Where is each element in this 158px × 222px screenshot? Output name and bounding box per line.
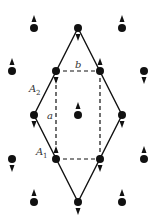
atom-dot-icon [30,198,38,206]
spin-up-arrow-icon [120,15,125,22]
spin-down-arrow-icon [10,165,15,172]
lattice-site [8,155,16,172]
atom-dot-icon [118,111,126,119]
atom-dot-icon [74,198,82,206]
atom-dot-icon [52,67,60,75]
label-A1-main: A [35,146,43,157]
spin-down-arrow-icon [32,121,37,128]
label-A1: A 1 [35,146,47,160]
spin-up-arrow-icon [76,102,81,109]
lattice-site [118,15,126,32]
spin-up-arrow-icon [98,58,103,65]
spin-down-arrow-icon [120,121,125,128]
lattice-site [30,15,38,32]
lattice-site [30,189,38,206]
spin-up-arrow-icon [32,189,37,196]
lattice-site [140,146,148,163]
lattice-sites [8,15,148,215]
label-A1-sub: 1 [43,152,47,160]
label-A2-main: A [28,83,36,94]
spin-up-arrow-icon [32,15,37,22]
atom-dot-icon [118,24,126,32]
atom-dot-icon [140,155,148,163]
spin-up-arrow-icon [120,189,125,196]
atom-dot-icon [96,155,104,163]
atom-dot-icon [140,67,148,75]
lattice-site [8,58,16,75]
label-b: b [75,59,81,70]
atom-dot-icon [118,198,126,206]
spin-down-arrow-icon [76,34,81,41]
atom-dot-icon [52,155,60,163]
label-A2: A 2 [28,83,40,97]
lattice-site [74,102,82,119]
spin-up-arrow-icon [54,146,59,153]
atom-dot-icon [30,24,38,32]
atom-dot-icon [96,67,104,75]
label-A2-sub: 2 [36,89,40,97]
atom-dot-icon [74,24,82,32]
spin-down-arrow-icon [54,77,59,84]
spin-down-arrow-icon [98,165,103,172]
spin-up-arrow-icon [142,146,147,153]
spin-lattice-diagram: b a A 2 A 1 [0,0,158,222]
lattice-site [140,67,148,84]
spin-down-arrow-icon [76,208,81,215]
atom-dot-icon [30,111,38,119]
atom-dot-icon [8,155,16,163]
atom-dot-icon [74,111,82,119]
lattice-site [74,198,82,215]
spin-down-arrow-icon [142,77,147,84]
label-a: a [47,110,53,121]
atom-dot-icon [8,67,16,75]
spin-up-arrow-icon [10,58,15,65]
lattice-site [118,189,126,206]
